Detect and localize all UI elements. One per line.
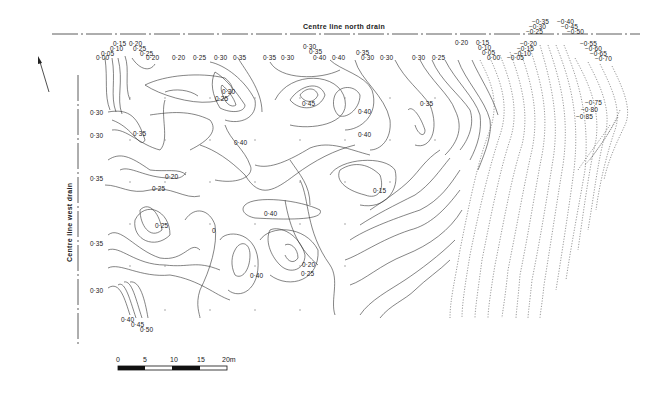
contour-label: 0·30 [412,54,425,61]
contour-label: −0·70 [595,55,612,62]
north-drain-label: Centre line north drain [303,23,385,30]
scale-bar [118,366,227,370]
contour-label: 0·30 [361,54,374,61]
contour-label: 0·00 [487,54,500,61]
contour-label: 0·30 [90,132,103,139]
contour-label: 0·25 [152,185,165,192]
contour-label: 0·40 [264,210,277,217]
contour-label: 0·30 [281,54,294,61]
contour-label: 0·25 [215,95,228,102]
contour-label: 0·00 [96,54,109,61]
contour-label: −0·75 [585,99,602,106]
contour-label: 0·25 [155,222,168,229]
contour-label: −0·85 [576,113,593,120]
contour-label: 0·40 [358,108,371,115]
contour-label: 0·30 [90,109,103,116]
scale-tick-label: 15 [197,356,205,363]
north-arrow-head-icon [38,56,42,64]
contour-label: −0·80 [581,106,598,113]
contour-label: 0·20 [165,173,178,180]
contour-label: 0·35 [420,100,433,107]
contour-label: 0·25 [193,54,206,61]
contour-label: 0·35 [263,54,276,61]
contour-label: 0·40 [250,272,263,279]
contour-label: 0·50 [140,326,153,333]
scale-tick-label: 0 [116,356,120,363]
contour-label: 0·35 [90,240,103,247]
scale-tick-label: 5 [143,356,147,363]
contour-label: 0·40 [313,54,326,61]
scale-tick-label: 20m [222,356,236,363]
contour-label: 0·25 [301,270,314,277]
contour-label: 0·30 [380,54,393,61]
contour-label: 0·35 [133,130,146,137]
north-arrow-icon [40,62,49,92]
contour-label: 0·20 [172,54,185,61]
contour-label: 0·20 [455,39,468,46]
contour-label: 0·35 [90,175,103,182]
contour-label: 0·25 [432,54,445,61]
contour-label: 0·15 [373,187,386,194]
contour-label: 0·40 [358,131,371,138]
contour-label: 0 [212,227,216,234]
contour-label: 0·30 [90,287,103,294]
contour-label: 0·30 [214,54,227,61]
contour-label: 0·20 [146,54,159,61]
contour-label: 0·35 [233,54,246,61]
contour-label: −0·25 [526,28,543,35]
contour-label: 0·20 [302,261,315,268]
contour-label: 0·45 [302,100,315,107]
contour-label: 0·30 [222,88,235,95]
contour-label: −0·10 [514,50,531,57]
scale-tick-label: 10 [170,356,178,363]
contour-label: 0·40 [234,139,247,146]
contour-label: −0·50 [567,28,584,35]
contour-label: 0·40 [332,54,345,61]
dotted-contours [450,45,628,318]
west-drain-label: Centre line west drain [66,183,73,262]
